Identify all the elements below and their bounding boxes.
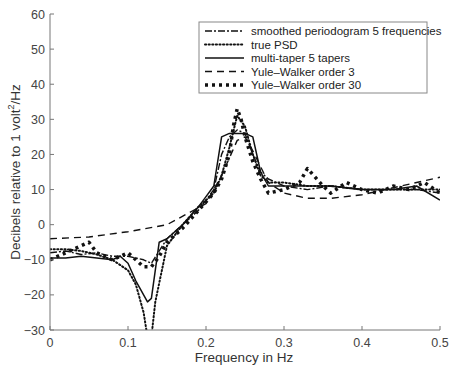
y-tick-label: 20 xyxy=(31,148,45,162)
psd-chart: −30−20−100102030405060 00.10.20.30.40.5 … xyxy=(0,0,454,376)
series-line-dashed xyxy=(50,137,440,239)
legend: smoothed periodogram 5 frequenciestrue P… xyxy=(199,22,442,93)
y-tick-label: 0 xyxy=(38,218,45,232)
legend-label: Yule–Walker order 30 xyxy=(251,79,361,91)
legend-label: Yule–Walker order 3 xyxy=(251,66,355,78)
x-axis-title: Frequency in Hz xyxy=(195,350,294,365)
y-tick-label: 60 xyxy=(31,8,45,22)
legend-label: true PSD xyxy=(251,39,298,51)
legend-label: multi-taper 5 tapers xyxy=(251,52,350,64)
plot-area xyxy=(50,109,440,337)
series-line-solid xyxy=(50,133,440,302)
x-tick-label: 0.4 xyxy=(353,336,370,350)
y-ticks: −30−20−100102030405060 xyxy=(24,8,54,338)
series-line-heavy-dotted xyxy=(50,109,440,267)
x-tick-label: 0.3 xyxy=(275,336,292,350)
y-tick-label: −10 xyxy=(24,253,45,267)
y-tick-label: 40 xyxy=(31,78,45,92)
x-tick-label: 0.1 xyxy=(119,336,136,350)
y-tick-label: 30 xyxy=(31,113,45,127)
series-line-dashdot xyxy=(50,130,440,263)
x-tick-label: 0 xyxy=(47,336,54,350)
y-axis-title: Decibels relative to 1 volt2/Hz xyxy=(6,84,23,260)
x-tick-label: 0.2 xyxy=(197,336,214,350)
x-tick-label: 0.5 xyxy=(431,336,448,350)
y-tick-label: −20 xyxy=(24,288,45,302)
series-line-dotted xyxy=(50,116,440,337)
y-tick-label: 50 xyxy=(31,43,45,57)
y-tick-label: −30 xyxy=(24,324,45,338)
y-tick-label: 10 xyxy=(31,183,45,197)
legend-label: smoothed periodogram 5 frequencies xyxy=(251,25,442,37)
